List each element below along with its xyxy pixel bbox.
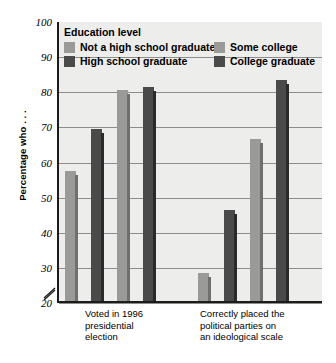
- y-axis-tick-label: 100: [5, 16, 57, 28]
- y-axis-tick-label: 70: [5, 121, 57, 133]
- legend-item-college-graduate: College graduate: [214, 55, 315, 68]
- bar-side: [260, 143, 263, 301]
- x-axis-category-line: Correctly placed the: [200, 308, 330, 320]
- x-axis-category-line: Voted in 1996: [85, 308, 205, 320]
- bar: [250, 139, 263, 301]
- y-axis-tick-label: 50: [5, 192, 57, 204]
- legend-label: High school graduate: [80, 55, 187, 68]
- bar-side: [101, 133, 104, 301]
- bar: [143, 87, 156, 301]
- legend-label: Not a high school graduate: [80, 41, 215, 54]
- x-axis-category-line: an ideological scale: [200, 331, 330, 343]
- legend-item-not-a-high-school-graduate: Not a high school graduate: [64, 41, 214, 54]
- bar: [117, 90, 130, 301]
- legend-label: Some college: [230, 41, 298, 54]
- x-axis-category-label: Correctly placed thepolitical parties on…: [200, 308, 330, 343]
- legend-item-some-college: Some college: [214, 41, 298, 54]
- legend-row: High school graduate College graduate: [64, 55, 316, 68]
- bar-chart: Percentage who . . . 1009080706050403020…: [0, 0, 336, 363]
- bar-side: [127, 94, 130, 301]
- legend-row: Not a high school graduate Some college: [64, 41, 316, 54]
- legend-swatch-icon: [214, 42, 225, 53]
- gridline: [59, 303, 322, 304]
- chart-legend: Education level Not a high school gradua…: [64, 26, 316, 69]
- legend-swatch-icon: [64, 56, 75, 67]
- legend-item-high-school-graduate: High school graduate: [64, 55, 214, 68]
- legend-title: Education level: [64, 26, 316, 38]
- x-axis-category-line: presidential: [85, 320, 205, 332]
- bar: [198, 273, 211, 301]
- bar-side: [234, 214, 237, 301]
- legend-swatch-icon: [64, 42, 75, 53]
- x-axis-category-label: Voted in 1996presidentialelection: [85, 308, 205, 343]
- bar: [65, 171, 78, 301]
- bar: [91, 129, 104, 301]
- legend-swatch-icon: [214, 56, 225, 67]
- bar: [224, 210, 237, 301]
- y-axis-tick-label: 60: [5, 157, 57, 169]
- y-axis-tick-label: 30: [5, 262, 57, 274]
- bar-side: [153, 91, 156, 301]
- y-axis-tick-label: 80: [5, 86, 57, 98]
- x-axis-category-line: political parties on: [200, 320, 330, 332]
- axis-break-icon: [42, 286, 58, 302]
- bar-side: [286, 84, 289, 301]
- bar: [276, 80, 289, 301]
- bar-side: [208, 277, 211, 301]
- y-axis-tick-labels: 1009080706050403020: [0, 0, 57, 325]
- y-axis-tick-label: 40: [5, 227, 57, 239]
- legend-label: College graduate: [230, 55, 315, 68]
- y-axis-tick-label: 90: [5, 51, 57, 63]
- x-axis-category-line: election: [85, 331, 205, 343]
- bar-side: [75, 175, 78, 301]
